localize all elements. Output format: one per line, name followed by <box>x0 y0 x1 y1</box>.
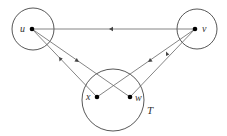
label-u: u <box>20 23 25 34</box>
edge-u-x <box>32 29 97 97</box>
edge-v-w <box>130 29 195 97</box>
label-T: T <box>147 104 154 116</box>
edge-v-x <box>97 29 195 97</box>
diagram-canvas: u v x w T <box>0 0 227 136</box>
vertex-x <box>95 95 100 100</box>
vertex-v <box>193 27 198 32</box>
label-w: w <box>135 92 142 103</box>
label-v: v <box>202 23 207 34</box>
edge-u-w <box>32 29 130 97</box>
vertex-w <box>128 95 133 100</box>
arrow-icon-vw <box>166 52 169 57</box>
vertex-u <box>30 27 35 32</box>
arrow-icon-uv <box>109 27 113 31</box>
label-x: x <box>85 91 91 102</box>
